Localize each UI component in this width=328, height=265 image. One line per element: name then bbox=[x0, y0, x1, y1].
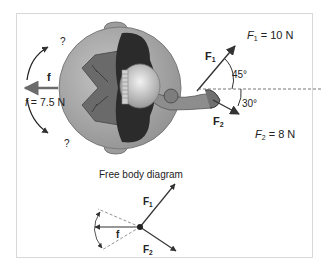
rotation-arrows bbox=[27, 47, 48, 133]
angle-45-label: 45° bbox=[232, 69, 247, 80]
f2-value-label: F2 = 8 N bbox=[255, 128, 295, 141]
fbd-title: Free body diagram bbox=[99, 169, 183, 180]
f2-arrow bbox=[213, 100, 239, 114]
f1-arrow bbox=[197, 46, 235, 91]
free-body-diagram: Free body diagram F1 F2 f bbox=[94, 169, 182, 256]
question-bottom: ? bbox=[64, 138, 70, 149]
f2-label: F2 bbox=[213, 115, 224, 128]
fbd-f2-label: F2 bbox=[143, 244, 153, 256]
question-top: ? bbox=[60, 36, 66, 47]
f1-value-label: F1 = 10 N bbox=[247, 29, 293, 42]
f1-label: F1 bbox=[205, 50, 216, 63]
diagram-canvas: f f = 7.5 N ? ? F1 F1 = 10 N 45° 30° F2 … bbox=[0, 0, 328, 265]
friction-label: f bbox=[47, 71, 51, 83]
ball-with-person-icon bbox=[59, 22, 220, 154]
fbd-f1-label: F1 bbox=[143, 196, 153, 208]
fbd-point bbox=[137, 224, 143, 230]
angle-30-label: 30° bbox=[242, 98, 257, 109]
friction-value-label: f = 7.5 N bbox=[25, 96, 65, 108]
fbd-friction-label: f bbox=[116, 229, 120, 240]
angle-arc-30 bbox=[238, 89, 241, 106]
